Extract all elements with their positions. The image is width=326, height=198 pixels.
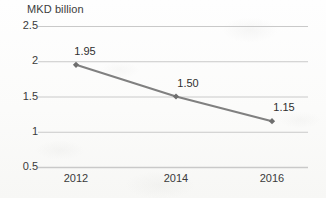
x-axis-tick-label: 2012 (46, 172, 106, 184)
line-chart: MKD billion 2.521.510.5 201220142016 1.9… (0, 0, 326, 198)
data-series-line (76, 65, 272, 121)
data-point-marker (269, 118, 275, 124)
x-axis-tick-label: 2014 (146, 172, 206, 184)
chart-canvas (0, 0, 326, 198)
y-axis-tick-label: 1 (0, 125, 38, 137)
x-axis-tick-label: 2016 (242, 172, 302, 184)
data-point-marker (73, 62, 79, 68)
data-point-value-label: 1.95 (60, 45, 110, 57)
y-axis-tick-label: 1.5 (0, 90, 38, 102)
data-point-value-label: 1.50 (163, 77, 213, 89)
y-axis-tick-label: 2 (0, 54, 38, 66)
data-point-value-label: 1.15 (259, 101, 309, 113)
y-axis-tick-label: 0.5 (0, 160, 38, 172)
data-point-marker (173, 93, 179, 99)
y-axis-tick-label: 2.5 (0, 19, 38, 31)
